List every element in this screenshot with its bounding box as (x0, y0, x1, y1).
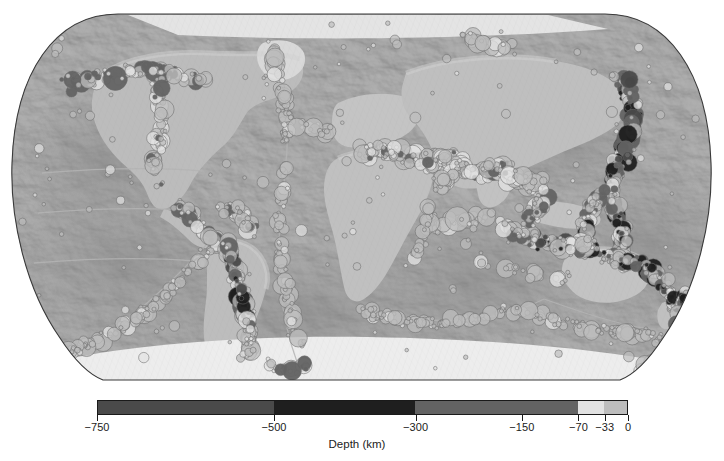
epicenter-marker[interactable] (432, 176, 436, 180)
epicenter-marker[interactable] (609, 342, 613, 346)
epicenter-marker[interactable] (198, 257, 209, 268)
epicenter-marker[interactable] (662, 283, 666, 287)
epicenter-marker[interactable] (276, 108, 281, 113)
epicenter-marker[interactable] (584, 235, 592, 243)
epicenter-marker[interactable] (672, 333, 676, 337)
epicenter-marker[interactable] (376, 176, 380, 180)
epicenter-marker[interactable] (35, 154, 39, 158)
epicenter-marker[interactable] (647, 65, 651, 69)
epicenter-marker[interactable] (626, 159, 631, 164)
epicenter-marker[interactable] (422, 228, 426, 232)
epicenter-marker[interactable] (463, 355, 467, 359)
epicenter-marker[interactable] (521, 233, 525, 237)
epicenter-marker[interactable] (678, 326, 685, 333)
epicenter-marker[interactable] (283, 362, 302, 381)
epicenter-marker[interactable] (109, 93, 113, 97)
epicenter-marker[interactable] (698, 351, 706, 359)
epicenter-marker[interactable] (630, 116, 634, 120)
epicenter-marker[interactable] (284, 267, 288, 271)
epicenter-marker[interactable] (671, 347, 679, 355)
epicenter-marker[interactable] (464, 164, 479, 179)
epicenter-marker[interactable] (645, 263, 649, 267)
epicenter-marker[interactable] (619, 231, 623, 235)
epicenter-marker[interactable] (209, 173, 213, 177)
epicenter-marker[interactable] (37, 358, 44, 365)
epicenter-marker[interactable] (525, 273, 535, 283)
epicenter-marker[interactable] (665, 334, 674, 343)
epicenter-marker[interactable] (438, 150, 451, 163)
epicenter-marker[interactable] (649, 362, 653, 366)
epicenter-marker[interactable] (274, 255, 287, 268)
epicenter-marker[interactable] (668, 334, 672, 338)
epicenter-marker[interactable] (38, 356, 43, 361)
epicenter-marker[interactable] (366, 47, 370, 51)
epicenter-marker[interactable] (139, 352, 149, 362)
epicenter-marker[interactable] (637, 155, 644, 162)
epicenter-marker[interactable] (683, 324, 687, 328)
epicenter-marker[interactable] (383, 155, 387, 159)
epicenter-marker[interactable] (691, 352, 695, 356)
epicenter-marker[interactable] (164, 293, 171, 300)
epicenter-marker[interactable] (407, 317, 411, 321)
epicenter-marker[interactable] (667, 334, 676, 343)
epicenter-marker[interactable] (683, 307, 687, 311)
epicenter-marker[interactable] (654, 362, 666, 374)
epicenter-marker[interactable] (424, 151, 429, 156)
epicenter-marker[interactable] (662, 340, 666, 344)
epicenter-marker[interactable] (285, 186, 289, 190)
epicenter-marker[interactable] (666, 337, 670, 341)
epicenter-marker[interactable] (513, 271, 517, 275)
epicenter-marker[interactable] (672, 334, 677, 339)
epicenter-marker[interactable] (592, 238, 597, 243)
epicenter-marker[interactable] (589, 200, 596, 207)
epicenter-marker[interactable] (351, 221, 355, 225)
epicenter-marker[interactable] (237, 292, 241, 296)
epicenter-marker[interactable] (153, 296, 159, 302)
epicenter-marker[interactable] (190, 72, 194, 76)
epicenter-marker[interactable] (644, 363, 654, 373)
epicenter-marker[interactable] (481, 167, 485, 171)
epicenter-marker[interactable] (624, 351, 635, 362)
epicenter-marker[interactable] (248, 272, 252, 276)
epicenter-marker[interactable] (371, 43, 375, 47)
epicenter-marker[interactable] (37, 293, 41, 297)
epicenter-marker[interactable] (235, 206, 239, 210)
epicenter-marker[interactable] (54, 347, 64, 357)
epicenter-marker[interactable] (379, 165, 383, 169)
epicenter-marker[interactable] (650, 363, 654, 367)
epicenter-marker[interactable] (654, 355, 658, 359)
epicenter-marker[interactable] (700, 358, 704, 362)
epicenter-marker[interactable] (548, 313, 558, 323)
epicenter-marker[interactable] (329, 22, 335, 28)
epicenter-marker[interactable] (163, 129, 167, 133)
epicenter-marker[interactable] (122, 266, 126, 270)
epicenter-marker[interactable] (77, 109, 81, 113)
epicenter-marker[interactable] (42, 202, 46, 206)
epicenter-marker[interactable] (171, 205, 177, 211)
epicenter-marker[interactable] (667, 341, 671, 345)
epicenter-marker[interactable] (555, 350, 563, 358)
epicenter-marker[interactable] (644, 270, 649, 275)
epicenter-marker[interactable] (85, 111, 94, 120)
world-map-svg[interactable] (8, 13, 715, 382)
epicenter-marker[interactable] (501, 109, 510, 118)
epicenter-marker[interactable] (388, 311, 402, 325)
epicenter-marker[interactable] (635, 329, 640, 334)
epicenter-marker[interactable] (370, 312, 376, 318)
epicenter-marker[interactable] (680, 308, 685, 313)
epicenter-marker[interactable] (670, 340, 680, 350)
epicenter-marker[interactable] (683, 350, 690, 357)
epicenter-marker[interactable] (460, 32, 465, 37)
epicenter-marker[interactable] (673, 332, 682, 341)
epicenter-marker[interactable] (566, 270, 570, 274)
epicenter-marker[interactable] (35, 352, 41, 358)
epicenter-marker[interactable] (657, 276, 661, 280)
epicenter-marker[interactable] (340, 121, 344, 125)
epicenter-marker[interactable] (430, 317, 434, 321)
epicenter-marker[interactable] (106, 72, 110, 76)
epicenter-marker[interactable] (175, 277, 186, 288)
epicenter-marker[interactable] (614, 129, 619, 134)
epicenter-marker[interactable] (469, 313, 481, 325)
epicenter-marker[interactable] (676, 347, 681, 352)
epicenter-marker[interactable] (600, 260, 604, 264)
